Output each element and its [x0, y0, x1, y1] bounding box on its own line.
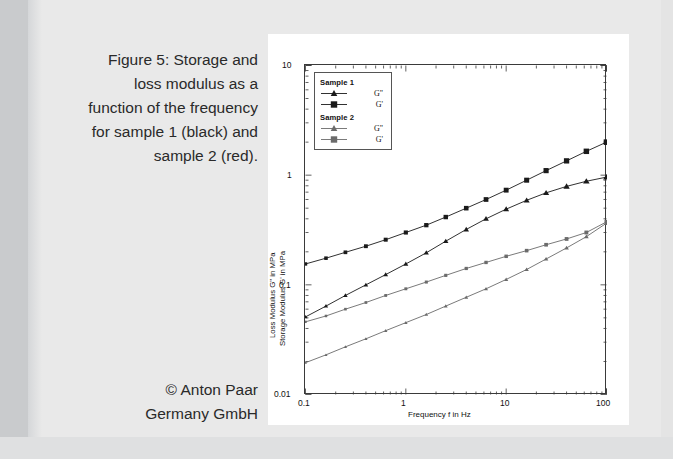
page-canvas: Figure 5: Storage and loss modulus as a … [0, 0, 673, 459]
page-left-margin-gradient [28, 0, 42, 459]
page-right-margin-band [661, 0, 673, 459]
figure-caption: Figure 5: Storage and loss modulus as a … [44, 48, 258, 168]
figure-caption-line-1: Figure 5: Storage and [44, 48, 258, 72]
legend-marker-square-gray [319, 134, 349, 145]
legend-group-title-sample-1: Sample 1 [320, 78, 387, 87]
legend-group-title-sample-2: Sample 2 [320, 113, 387, 122]
page-bottom-margin-band [0, 437, 673, 459]
y-tick-label-1: 1 [287, 170, 292, 180]
legend-label-sample2-gprime: G' [349, 135, 387, 144]
x-tick-label-0.1: 0.1 [298, 398, 310, 408]
figure-caption-line-5: sample 2 (red). [44, 144, 258, 168]
y-axis-title-loss-modulus: Loss Modulus G" in MPa [268, 252, 277, 338]
legend-marker-triangle-black [319, 88, 349, 99]
legend-item-sample1-loss-modulus[interactable]: G" [319, 88, 387, 99]
x-tick-label-1: 1 [401, 398, 406, 408]
copyright-line-2: Germany GmbH [44, 402, 258, 426]
x-axis-title: Frequency f in Hz [408, 410, 471, 419]
x-tick-label-100: 100 [596, 398, 610, 408]
legend-item-sample2-loss-modulus[interactable]: G" [319, 123, 387, 134]
legend-label-sample1-gprime: G' [349, 100, 387, 109]
y-tick-label-0.01: 0.01 [274, 389, 291, 399]
figure-caption-line-2: loss modulus as a [44, 72, 258, 96]
y-axis-title-group: Loss Modulus G" in MPa Storage Modulus G… [262, 142, 276, 342]
legend-item-sample2-storage-modulus[interactable]: G' [319, 134, 387, 145]
y-axis-title-storage-modulus: Storage Modulus G' in MPa [278, 251, 287, 346]
x-tick-label-10: 10 [500, 398, 509, 408]
legend-marker-square-black [319, 99, 349, 110]
legend-item-sample1-storage-modulus[interactable]: G' [319, 99, 387, 110]
legend-label-sample2-gdoubleprime: G" [349, 124, 387, 133]
copyright-line-1: © Anton Paar [44, 378, 258, 402]
figure-panel: 10 1 0.1 0.01 0.1 1 10 100 Frequency f i… [268, 34, 629, 425]
legend-label-sample1-gdoubleprime: G" [349, 89, 387, 98]
copyright-notice: © Anton Paar Germany GmbH [44, 378, 258, 426]
y-tick-label-10: 10 [282, 60, 291, 70]
chart-legend: Sample 1 G" G' [314, 72, 392, 150]
figure-caption-line-3: function of the frequency [44, 96, 258, 120]
figure-caption-line-4: for sample 1 (black) and [44, 120, 258, 144]
legend-marker-triangle-gray [319, 123, 349, 134]
